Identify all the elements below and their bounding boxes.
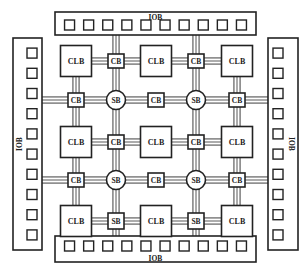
io-pad xyxy=(273,48,283,58)
switch-box: SB xyxy=(108,213,124,229)
cb-label: CB xyxy=(111,57,121,66)
iob-bank-left: IOB xyxy=(13,38,42,250)
connection-box: CB xyxy=(229,173,245,187)
clb-label: CLB xyxy=(229,138,246,147)
connection-box: CB xyxy=(229,93,245,107)
clb-label: CLB xyxy=(148,138,165,147)
io-pad xyxy=(103,241,113,251)
iob-bank-right: IOB xyxy=(268,38,298,250)
io-pad xyxy=(27,129,37,139)
iob-label: IOB xyxy=(149,13,163,22)
clb: CLB xyxy=(61,127,92,158)
fpga-architecture-diagram: IOBIOBIOBIOB CLBCLBCLBCLBCLBCLBCLBCLBCLB… xyxy=(0,0,306,272)
clb-label: CLB xyxy=(148,57,165,66)
sb-label: SB xyxy=(191,96,200,105)
io-pad xyxy=(122,20,132,30)
cb-label: CB xyxy=(151,176,161,185)
io-pad xyxy=(179,20,189,30)
io-pad xyxy=(198,20,208,30)
io-pad xyxy=(273,149,283,159)
connection-box: CB xyxy=(148,93,164,107)
io-pad xyxy=(122,241,132,251)
io-pad xyxy=(141,241,151,251)
clb-label: CLB xyxy=(68,217,85,226)
iob-bank-bottom: IOB xyxy=(55,236,256,263)
sb-label: SB xyxy=(111,96,120,105)
io-pad xyxy=(27,169,37,179)
switch-box: SB xyxy=(107,91,126,110)
clb: CLB xyxy=(222,127,253,158)
clb: CLB xyxy=(61,206,92,237)
io-pad xyxy=(27,89,37,99)
io-pad xyxy=(273,109,283,119)
io-pad xyxy=(84,20,94,30)
io-pad xyxy=(65,20,75,30)
clb-array: CLBCLBCLBCLBCLBCLBCLBCLBCLB xyxy=(61,46,253,237)
iob-label: IOB xyxy=(287,137,296,151)
clb-label: CLB xyxy=(68,57,85,66)
io-pad xyxy=(198,241,208,251)
iob-label: IOB xyxy=(149,254,163,263)
clb: CLB xyxy=(61,46,92,77)
io-pad xyxy=(273,169,283,179)
io-pad xyxy=(217,20,227,30)
clb: CLB xyxy=(222,46,253,77)
sb-label: SB xyxy=(111,176,120,185)
io-pad xyxy=(27,68,37,78)
switch-box: SB xyxy=(188,213,204,229)
cb-label: CB xyxy=(151,96,161,105)
io-pad xyxy=(236,241,246,251)
io-pad xyxy=(27,48,37,58)
clb-label: CLB xyxy=(229,57,246,66)
io-pad xyxy=(236,20,246,30)
switch-box: SB xyxy=(107,171,126,190)
clb: CLB xyxy=(222,206,253,237)
cb-label: CB xyxy=(191,138,201,147)
sb-label: SB xyxy=(191,176,200,185)
clb: CLB xyxy=(141,206,172,237)
switch-box: SB xyxy=(187,171,206,190)
sb-label: SB xyxy=(111,217,120,226)
connection-box: CB xyxy=(148,173,164,187)
cb-label: CB xyxy=(232,96,242,105)
io-pad xyxy=(27,149,37,159)
cb-label: CB xyxy=(111,138,121,147)
clb-label: CLB xyxy=(148,217,165,226)
io-pad xyxy=(273,89,283,99)
io-pad xyxy=(273,190,283,200)
connection-box: CB xyxy=(68,93,84,107)
io-pad xyxy=(84,241,94,251)
io-pad xyxy=(160,241,170,251)
clb: CLB xyxy=(141,127,172,158)
io-pad xyxy=(27,230,37,240)
sb-label: SB xyxy=(191,217,200,226)
io-pad xyxy=(27,109,37,119)
connection-box: CB xyxy=(108,54,124,68)
io-pad xyxy=(273,210,283,220)
connection-box: CB xyxy=(188,54,204,68)
io-pad xyxy=(217,241,227,251)
io-pad xyxy=(179,241,189,251)
switch-box: SB xyxy=(187,91,206,110)
io-pad xyxy=(273,68,283,78)
cb-label: CB xyxy=(232,176,242,185)
connection-box: CB xyxy=(108,135,124,149)
io-pad xyxy=(27,210,37,220)
io-pad xyxy=(273,129,283,139)
cb-label: CB xyxy=(191,57,201,66)
clb-label: CLB xyxy=(229,217,246,226)
io-pad xyxy=(273,230,283,240)
connection-box: CB xyxy=(188,135,204,149)
cb-label: CB xyxy=(71,96,81,105)
io-pad xyxy=(65,241,75,251)
connection-box: CB xyxy=(68,173,84,187)
io-pad xyxy=(27,190,37,200)
io-pad xyxy=(103,20,113,30)
cb-label: CB xyxy=(71,176,81,185)
iob-label: IOB xyxy=(15,137,24,151)
clb: CLB xyxy=(141,46,172,77)
iob-bank-top: IOB xyxy=(55,12,256,35)
clb-label: CLB xyxy=(68,138,85,147)
